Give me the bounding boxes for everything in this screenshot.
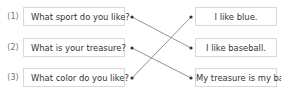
left-dot-3[interactable]: [130, 76, 133, 79]
question-number-1: (1): [6, 7, 20, 27]
question-box-1: What sport do you like?: [23, 7, 125, 26]
answer-box-1: I like blue.: [195, 7, 277, 26]
question-box-3: What color do you like?: [23, 68, 125, 87]
question-number-2: (2): [6, 38, 20, 58]
connector-line-1: [132, 17, 191, 48]
left-dot-1[interactable]: [130, 15, 133, 18]
question-box-2: What is your treasure?: [23, 38, 125, 57]
right-dot-2[interactable]: [189, 46, 192, 49]
right-dot-1[interactable]: [189, 15, 192, 18]
question-number-3: (3): [6, 68, 20, 88]
right-dot-3[interactable]: [189, 76, 192, 79]
left-dot-2[interactable]: [130, 46, 133, 49]
connector-line-2: [132, 48, 191, 78]
answer-box-3: My treasure is my bag.: [195, 68, 277, 87]
answer-box-2: I like baseball.: [195, 38, 277, 57]
connector-line-3: [132, 17, 191, 78]
